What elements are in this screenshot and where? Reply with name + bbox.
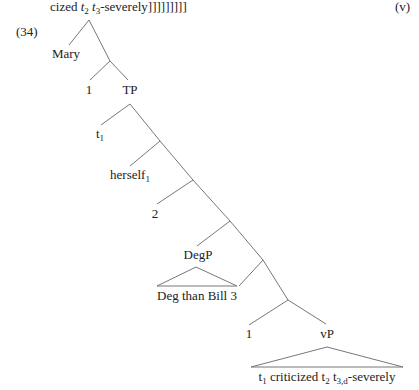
node-index-2: 2	[152, 207, 159, 221]
text: -severely	[348, 369, 396, 384]
node-index-1: 1	[86, 83, 93, 97]
subscript: 1	[145, 174, 150, 184]
subscript: 3,d	[337, 376, 348, 386]
degp-content: Deg than Bill 3	[157, 289, 237, 303]
node-t1: t1	[96, 127, 104, 141]
vp-content: t1 criticized t2 t3,d-severely	[259, 370, 396, 384]
node-mary: Mary	[52, 47, 80, 61]
node-index-1b: 1	[246, 327, 253, 341]
subscript: 1	[100, 133, 105, 143]
node-degp: DegP	[184, 248, 213, 262]
text: criticized	[267, 369, 322, 384]
node-vp: vP	[320, 327, 334, 341]
node-herself: herself1	[110, 168, 150, 182]
node-tp: TP	[122, 83, 137, 97]
text: herself	[110, 167, 145, 182]
text: t	[330, 369, 337, 384]
